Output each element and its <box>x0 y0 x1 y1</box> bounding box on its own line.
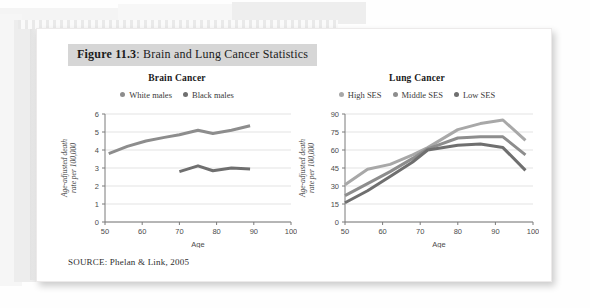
legend-label-white-males: White males <box>129 90 172 100</box>
brain-chart-legend: White males Black males <box>57 89 297 100</box>
svg-text:100: 100 <box>527 227 539 236</box>
svg-text:4: 4 <box>95 146 99 155</box>
legend-dot-icon <box>183 92 188 97</box>
brain-cancer-panel: Brain Cancer White males Black males 012… <box>57 73 297 248</box>
lung-plot-area: 01530456075905060708090100AgeAge-adjuste… <box>295 108 539 248</box>
legend-dot-icon <box>120 92 125 97</box>
legend-label-middle-ses: Middle SES <box>402 90 443 100</box>
figure-source-note: SOURCE: Phelan & Link, 2005 <box>68 257 189 267</box>
svg-text:Age-adjusted death: Age-adjusted death <box>60 139 69 198</box>
svg-text:2: 2 <box>95 182 99 191</box>
svg-text:75: 75 <box>331 128 339 137</box>
figure-title: Figure 11.3: Brain and Lung Cancer Stati… <box>68 44 317 66</box>
figure-title-text: : Brain and Lung Cancer Statistics <box>136 47 308 61</box>
svg-text:30: 30 <box>331 182 339 191</box>
svg-text:rate per 100,000: rate per 100,000 <box>307 143 316 193</box>
svg-text:90: 90 <box>250 227 258 236</box>
svg-text:70: 70 <box>175 227 183 236</box>
svg-text:Age-adjusted death: Age-adjusted death <box>298 139 307 198</box>
svg-text:70: 70 <box>416 227 424 236</box>
svg-text:0: 0 <box>95 218 99 227</box>
svg-text:0: 0 <box>335 218 339 227</box>
legend-label-high-ses: High SES <box>348 90 382 100</box>
lung-chart-legend: High SES Middle SES Low SES <box>295 89 539 100</box>
svg-text:80: 80 <box>212 227 220 236</box>
brain-cancer-chart: 01234565060708090100AgeAge-adjusted deat… <box>57 108 297 248</box>
svg-text:50: 50 <box>341 227 349 236</box>
legend-item-black-males: Black males <box>183 90 234 100</box>
legend-label-low-ses: Low SES <box>463 90 495 100</box>
lung-cancer-chart: 01530456075905060708090100AgeAge-adjuste… <box>295 108 539 248</box>
svg-text:45: 45 <box>331 164 339 173</box>
svg-text:50: 50 <box>101 227 109 236</box>
svg-text:3: 3 <box>95 164 99 173</box>
svg-text:Age: Age <box>432 240 445 248</box>
svg-text:90: 90 <box>491 227 499 236</box>
legend-item-white-males: White males <box>120 90 172 100</box>
legend-dot-icon <box>339 92 344 97</box>
svg-text:60: 60 <box>331 146 339 155</box>
legend-dot-icon <box>454 92 459 97</box>
legend-label-black-males: Black males <box>192 90 234 100</box>
svg-text:90: 90 <box>331 110 339 119</box>
svg-text:80: 80 <box>454 227 462 236</box>
svg-text:60: 60 <box>138 227 146 236</box>
figure-number-label: Figure 11.3 <box>77 47 136 61</box>
svg-text:Age: Age <box>191 240 204 248</box>
legend-item-middle-ses: Middle SES <box>393 90 443 100</box>
legend-dot-icon <box>393 92 398 97</box>
lung-chart-title: Lung Cancer <box>295 73 539 83</box>
svg-text:6: 6 <box>95 110 99 119</box>
svg-text:5: 5 <box>95 128 99 137</box>
figure-page: Figure 11.3: Brain and Lung Cancer Stati… <box>36 28 552 282</box>
legend-item-high-ses: High SES <box>339 90 382 100</box>
lung-cancer-panel: Lung Cancer High SES Middle SES Low SES … <box>295 73 539 248</box>
svg-text:60: 60 <box>378 227 386 236</box>
legend-item-low-ses: Low SES <box>454 90 495 100</box>
svg-text:1: 1 <box>95 200 99 209</box>
svg-text:15: 15 <box>331 200 339 209</box>
brain-chart-title: Brain Cancer <box>57 73 297 83</box>
brain-plot-area: 01234565060708090100AgeAge-adjusted deat… <box>57 108 297 248</box>
svg-text:rate per 100,000: rate per 100,000 <box>69 143 78 193</box>
